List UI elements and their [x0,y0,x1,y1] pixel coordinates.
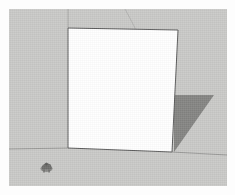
screenshot-root: 3D modeling viewport with extruded recta… [0,0,235,195]
scene-vector-layer [9,9,227,186]
model-viewport[interactable] [9,9,227,186]
white-rectangular-face[interactable] [68,28,178,152]
